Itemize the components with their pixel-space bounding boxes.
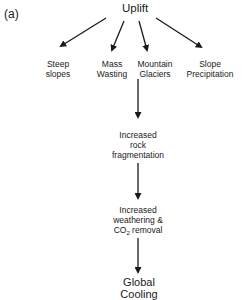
node-rock-fragmentation-line2: rock bbox=[108, 140, 168, 150]
node-steep-slopes-line2: slopes bbox=[40, 69, 76, 79]
node-mass-wasting-line1: Mass bbox=[92, 59, 132, 69]
node-weathering-co2-removal: Increased weathering & CO2 removal bbox=[104, 205, 172, 238]
arrow-uplift-to-mass-wasting bbox=[112, 21, 124, 50]
arrow-uplift-to-slope-precipitation bbox=[156, 18, 201, 47]
node-rock-fragmentation-line3: fragmentation bbox=[108, 150, 168, 160]
node-steep-slopes: Steep slopes bbox=[40, 59, 76, 79]
node-mass-wasting-line2: Wasting bbox=[92, 69, 132, 79]
node-rock-fragmentation-line1: Increased bbox=[108, 130, 168, 140]
node-slope-precipitation-line1: Slope bbox=[182, 59, 238, 69]
node-slope-precipitation: Slope Precipitation bbox=[182, 59, 238, 79]
panel-label: (a) bbox=[4, 7, 19, 21]
node-slope-precipitation-line2: Precipitation bbox=[182, 69, 238, 79]
arrow-uplift-to-mountain-glaciers bbox=[139, 21, 147, 50]
arrow-uplift-to-steep-slopes bbox=[61, 18, 106, 46]
co2-text: CO bbox=[114, 225, 127, 235]
node-weathering-line1: Increased bbox=[104, 205, 172, 215]
node-uplift: Uplift bbox=[122, 2, 148, 14]
node-global-cooling: Global Cooling bbox=[104, 276, 174, 300]
node-mountain-glaciers-line1: Mountain bbox=[134, 59, 176, 69]
node-weathering-line3: CO2 removal bbox=[104, 225, 172, 238]
removal-text: removal bbox=[130, 225, 163, 235]
node-mass-wasting: Mass Wasting bbox=[92, 59, 132, 79]
node-mountain-glaciers: Mountain Glaciers bbox=[134, 59, 176, 79]
node-mountain-glaciers-line2: Glaciers bbox=[134, 69, 176, 79]
node-steep-slopes-line1: Steep bbox=[40, 59, 76, 69]
node-rock-fragmentation: Increased rock fragmentation bbox=[108, 130, 168, 160]
node-weathering-line2: weathering & bbox=[104, 215, 172, 225]
